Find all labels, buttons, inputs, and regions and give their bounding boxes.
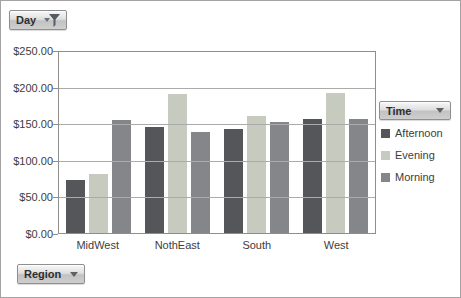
legend-item-morning: Morning	[381, 171, 443, 183]
y-tick-mark	[53, 234, 58, 235]
day-filter-button[interactable]: Day	[9, 10, 67, 30]
bar-afternoon-west	[303, 119, 322, 233]
bar-afternoon-midwest	[66, 180, 85, 233]
bar-morning-notheast	[191, 132, 210, 233]
day-filter-label: Day	[16, 14, 36, 26]
y-tick-label: $250.00	[3, 45, 53, 57]
legend-label: Morning	[395, 171, 435, 183]
legend-label: Afternoon	[395, 127, 443, 139]
y-tick-label: $50.00	[3, 191, 53, 203]
x-axis-labels: MidWestNothEastSouthWest	[58, 239, 376, 251]
y-tick-label: $0.00	[3, 228, 53, 240]
y-tick-mark	[53, 161, 58, 162]
y-tick-mark	[53, 88, 58, 89]
legend-swatch-afternoon	[381, 129, 390, 138]
plot-area	[58, 51, 376, 234]
bar-morning-south	[270, 122, 289, 233]
filter-funnel-icon	[44, 14, 60, 27]
region-filter-label: Region	[24, 268, 61, 280]
bar-group-south	[217, 52, 296, 233]
chevron-down-icon	[436, 108, 444, 113]
legend-item-evening: Evening	[381, 149, 443, 161]
y-tick-label: $100.00	[3, 155, 53, 167]
y-tick-label: $150.00	[3, 118, 53, 130]
pivot-chart-frame: Day $250.00$200.00$150.00$100.00$50.00$0…	[0, 0, 461, 298]
legend-swatch-evening	[381, 151, 390, 160]
gridline	[59, 161, 375, 162]
time-filter-button[interactable]: Time	[379, 101, 451, 120]
bar-morning-midwest	[112, 120, 131, 233]
x-axis-label-notheast: NothEast	[138, 239, 218, 251]
x-axis-label-midwest: MidWest	[58, 239, 138, 251]
bar-groups	[59, 52, 375, 233]
region-filter-button[interactable]: Region	[17, 264, 85, 284]
bar-group-west	[296, 52, 375, 233]
bar-evening-notheast	[168, 94, 187, 233]
bar-afternoon-south	[224, 129, 243, 233]
bar-evening-south	[247, 116, 266, 233]
bar-evening-midwest	[89, 174, 108, 233]
x-axis-label-west: West	[297, 239, 377, 251]
gridline	[59, 88, 375, 89]
legend-label: Evening	[395, 149, 435, 161]
bar-afternoon-notheast	[145, 127, 164, 233]
gridline	[59, 197, 375, 198]
bar-morning-west	[349, 119, 368, 233]
y-tick-label: $200.00	[3, 82, 53, 94]
legend: AfternoonEveningMorning	[381, 127, 443, 183]
y-tick-mark	[53, 124, 58, 125]
time-filter-label: Time	[386, 105, 411, 117]
gridline	[59, 124, 375, 125]
legend-swatch-morning	[381, 173, 390, 182]
y-tick-mark	[53, 51, 58, 52]
bar-group-notheast	[138, 52, 217, 233]
bar-group-midwest	[59, 52, 138, 233]
legend-item-afternoon: Afternoon	[381, 127, 443, 139]
y-tick-mark	[53, 197, 58, 198]
chevron-down-icon	[70, 272, 78, 277]
x-axis-label-south: South	[217, 239, 297, 251]
bar-evening-west	[326, 93, 345, 233]
